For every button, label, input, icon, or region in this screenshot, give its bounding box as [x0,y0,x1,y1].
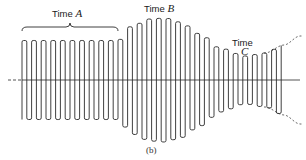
envelope-lower-dashed [264,107,302,124]
figure-caption: (b) [146,146,157,155]
label-time-c-letter: C [241,46,248,57]
envelope-upper-dashed [264,36,302,53]
modulated-waveform-figure [0,0,306,160]
label-time-a-word: Time [52,8,73,19]
label-time-b: Time B [144,3,174,14]
label-time-b-word: Time [144,3,165,14]
label-time-b-letter: B [167,2,174,14]
label-time-a-letter: A [75,7,82,19]
label-time-a: Time A [52,8,82,19]
brace-path [22,23,118,31]
time-a-brace [22,23,118,31]
